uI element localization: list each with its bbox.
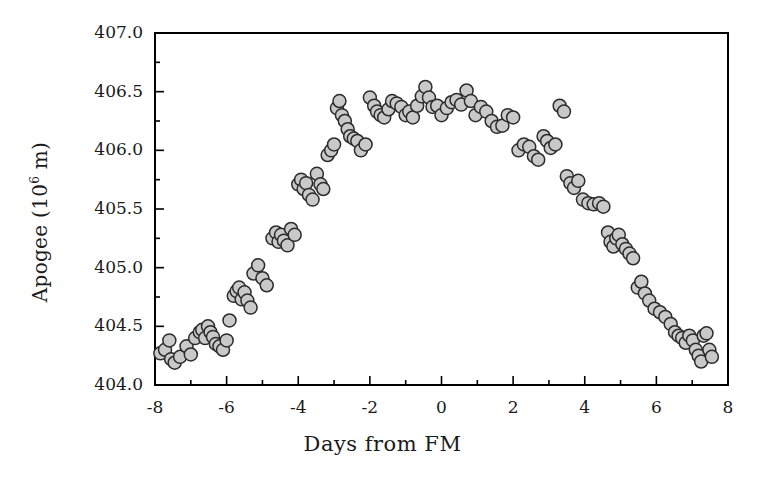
apogee-scatter-figure: Days from FM Apogee (106 m) 404.0404.540… <box>0 0 765 484</box>
data-point <box>532 153 545 166</box>
y-tick-label: 405.0 <box>94 257 143 277</box>
data-point <box>507 111 520 124</box>
x-tick-label: 4 <box>560 397 610 417</box>
y-axis-title-tail: m) <box>28 142 52 176</box>
y-axis-title-main: Apogee (10 <box>28 184 52 302</box>
data-point <box>252 259 265 272</box>
data-point <box>220 334 233 347</box>
y-tick-label: 406.5 <box>94 81 143 101</box>
x-tick-label: -8 <box>130 397 180 417</box>
data-point <box>163 334 176 347</box>
data-point <box>549 138 562 151</box>
x-axis-title: Days from FM <box>0 432 765 456</box>
data-point <box>597 200 610 213</box>
data-point <box>300 177 313 190</box>
y-tick-label: 407.0 <box>94 22 143 42</box>
x-tick-label: 6 <box>631 397 681 417</box>
x-tick-label: -4 <box>273 397 323 417</box>
y-tick-label: 406.0 <box>94 139 143 159</box>
data-point <box>328 138 341 151</box>
data-point <box>627 252 640 265</box>
data-point <box>572 174 585 187</box>
x-tick-label: 0 <box>417 397 467 417</box>
y-axis-title: Apogee (106 m) <box>28 102 52 342</box>
x-tick-label: -6 <box>202 397 252 417</box>
plot-frame <box>155 33 728 385</box>
data-point <box>223 314 236 327</box>
y-tick-label: 404.0 <box>94 374 143 394</box>
data-point <box>244 301 257 314</box>
y-tick-label: 405.5 <box>94 198 143 218</box>
data-point <box>184 348 197 361</box>
x-tick-label: 8 <box>703 397 753 417</box>
data-point <box>306 193 319 206</box>
data-point <box>260 279 273 292</box>
data-point <box>333 95 346 108</box>
data-point <box>359 138 372 151</box>
data-point <box>288 228 301 241</box>
plot-border <box>155 33 728 385</box>
data-points <box>154 80 719 369</box>
x-tick-label: -2 <box>345 397 395 417</box>
x-tick-label: 2 <box>488 397 538 417</box>
data-point <box>700 327 713 340</box>
axis-ticks <box>155 33 728 385</box>
data-point <box>317 183 330 196</box>
y-tick-label: 404.5 <box>94 315 143 335</box>
y-axis-title-exponent: 6 <box>28 176 42 184</box>
data-point <box>557 105 570 118</box>
data-point <box>705 350 718 363</box>
